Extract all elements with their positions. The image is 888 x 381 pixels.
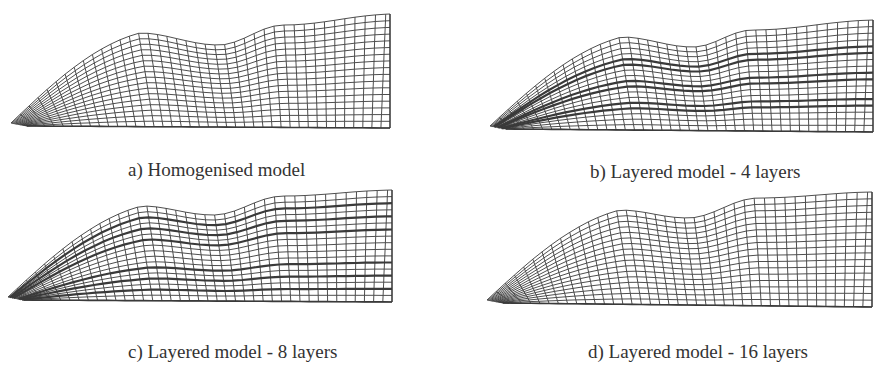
caption-layered-16: d) Layered model - 16 layers — [588, 342, 808, 361]
caption-homogenised-model: a) Homogenised model — [128, 160, 305, 179]
caption-layered-8: c) Layered model - 8 layers — [128, 342, 337, 361]
deformed-mesh-4-layers — [490, 20, 873, 132]
mesh-canvas — [0, 0, 888, 381]
deformed-mesh-16-layers — [487, 192, 872, 307]
deformed-mesh-8-layers — [8, 190, 392, 302]
caption-layered-4: b) Layered model - 4 layers — [590, 162, 801, 181]
deformed-mesh-homogenised — [11, 14, 390, 128]
